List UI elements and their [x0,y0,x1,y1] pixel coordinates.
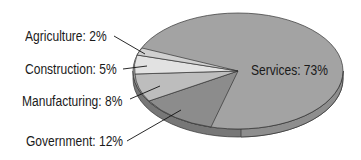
label-services: Services: 73% [251,62,328,78]
label-manufacturing: Manufacturing: 8% [22,93,122,109]
label-construction: Construction: 5% [25,61,117,77]
label-government: Government: 12% [26,133,123,149]
label-agriculture: Agriculture: 2% [25,28,107,44]
